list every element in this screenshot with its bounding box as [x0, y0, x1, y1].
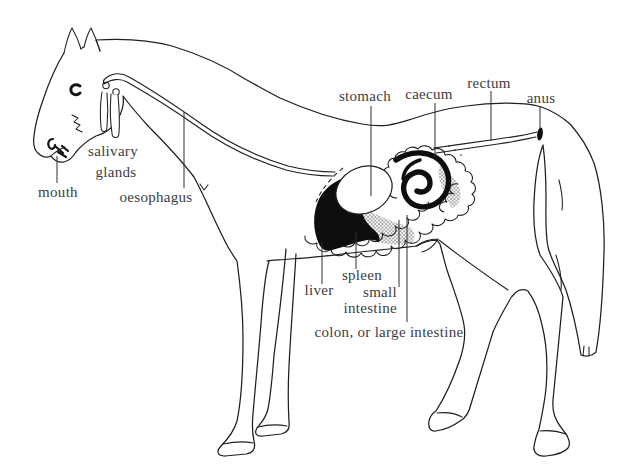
label-liver: liver [305, 282, 334, 298]
diagram-canvas: mouth salivary glands oesophagus stomach… [0, 0, 637, 475]
label-spleen: spleen [342, 267, 382, 283]
label-rectum: rectum [467, 75, 510, 91]
caecum-texture-dot [460, 154, 462, 156]
horse-head-and-chest-outline [34, 53, 269, 456]
label-stomach: stomach [339, 88, 391, 104]
label-small-intestine-line1: small [363, 284, 397, 300]
tail-strand-lines [556, 180, 589, 356]
anus-mark [536, 127, 543, 141]
salivary-gland-duct-1 [100, 92, 107, 132]
label-mouth: mouth [38, 184, 78, 200]
rectum-tube [434, 132, 537, 153]
nostril-mark [48, 139, 55, 149]
salivary-gland-node-2 [113, 89, 119, 95]
eye-mark [71, 85, 80, 95]
digestive-organs [103, 74, 543, 257]
horse-digestive-diagram: mouth salivary glands oesophagus stomach… [0, 0, 637, 475]
chest-notch [200, 184, 208, 190]
label-anus: anus [527, 90, 556, 106]
front-far-leg [256, 249, 296, 436]
teeth-zigzag [72, 115, 82, 132]
ear-front [64, 28, 81, 53]
hoof-coronet-lines [223, 413, 566, 444]
label-salivary-glands-line2: glands [96, 164, 137, 180]
leader-lines [57, 91, 540, 322]
stifle-fold-lines [416, 239, 508, 290]
label-colon: colon, or large intestine [315, 324, 464, 340]
label-small-intestine-line2: intestine [343, 300, 397, 316]
label-oesophagus: oesophagus [120, 189, 193, 205]
salivary-gland-duct-2 [110, 94, 119, 138]
label-salivary-glands-line1: salivary [88, 143, 138, 159]
oesophagus-tube [103, 74, 335, 176]
label-caecum: caecum [405, 86, 453, 102]
